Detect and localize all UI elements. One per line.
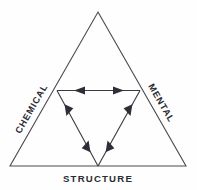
label-chemical: CHEMICAL: [13, 82, 50, 135]
arrow-head-toward-chemical-lower: [65, 104, 74, 116]
label-mental: MENTAL: [146, 82, 176, 124]
arrow-head-toward-structure-right: [106, 141, 115, 153]
arrow-head-toward-mental: [113, 87, 124, 95]
arrow-head-toward-structure-left: [82, 141, 91, 153]
relation-chemical-structure: [57, 91, 98, 167]
triad-diagram: CHEMICAL MENTAL STRUCTURE: [0, 0, 197, 190]
relation-chemical-mental: [57, 87, 140, 95]
label-structure: STRUCTURE: [63, 173, 133, 184]
relation-mental-structure: [98, 91, 140, 167]
arrow-head-toward-mental-lower: [124, 104, 133, 116]
relation-chemical-structure-line: [57, 91, 98, 167]
relation-mental-structure-line: [98, 91, 140, 167]
arrow-head-toward-chemical: [74, 87, 85, 95]
triad-svg-canvas: CHEMICAL MENTAL STRUCTURE: [0, 0, 197, 190]
